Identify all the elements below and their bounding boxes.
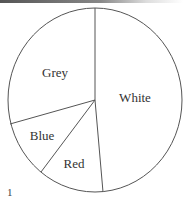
slice-label-blue: Blue bbox=[30, 128, 55, 143]
slice-label-white: White bbox=[119, 90, 151, 105]
pie-chart: Grey White Blue Red bbox=[0, 0, 183, 202]
slice-label-grey: Grey bbox=[42, 65, 68, 80]
figure-number: 1 bbox=[7, 186, 13, 198]
slice-label-red: Red bbox=[64, 156, 85, 171]
